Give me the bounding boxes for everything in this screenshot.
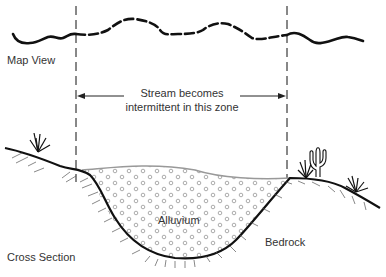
- cactus-icon: [310, 148, 326, 177]
- bedrock-label: Bedrock: [265, 236, 306, 248]
- map-view-label: Map View: [7, 54, 55, 66]
- cross-section-label: Cross Section: [7, 251, 75, 263]
- map-view: Map View: [7, 19, 363, 66]
- cross-section: Alluvium Bedrock Cross Section: [5, 133, 380, 270]
- intermittent-stream-diagram: Map View Stream becomes intermittent in …: [0, 0, 386, 277]
- shrub-left-icon: [30, 133, 50, 152]
- zone-label-line1: Stream becomes: [140, 87, 224, 99]
- stream-perennial-right: [287, 33, 363, 43]
- zone-label-line2: intermittent in this zone: [125, 101, 238, 113]
- stream-intermittent: [76, 19, 287, 39]
- stream-perennial-left: [13, 34, 76, 43]
- alluvium-label: Alluvium: [158, 214, 200, 226]
